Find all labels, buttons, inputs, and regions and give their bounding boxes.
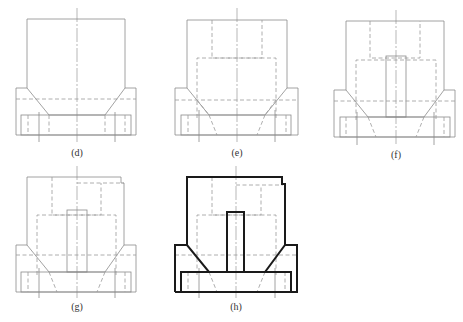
panel-f-drawing [334,10,455,145]
panel-label-e: (e) [217,147,257,158]
panel-e-drawing [175,8,298,142]
panel-d-drawing [16,8,136,142]
technical-drawing-figure [0,0,463,322]
panel-g-drawing [16,166,136,298]
panel-h-drawing [175,166,297,298]
panel-label-g: (g) [57,301,97,312]
panel-label-f: (f) [376,149,416,160]
panel-label-d: (d) [57,147,97,158]
panel-label-h: (h) [216,301,256,312]
